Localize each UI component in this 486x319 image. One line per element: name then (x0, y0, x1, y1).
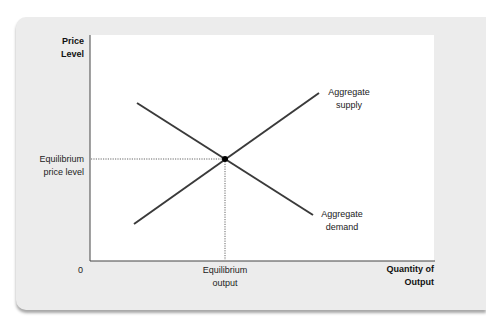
equilibrium-point (222, 156, 228, 162)
x-axis-label-line2: Output (360, 276, 434, 289)
eq-output-label: Equilibrium output (190, 264, 260, 290)
eq-output-label-line1: Equilibrium (190, 264, 260, 277)
eq-price-label-line1: Equilibrium (20, 153, 84, 166)
aggregate-supply-label-line1: Aggregate (318, 86, 380, 99)
aggregate-supply-label-line2: supply (318, 99, 380, 112)
x-axis-label: Quantity of Output (360, 263, 434, 289)
y-axis-label-line1: Price (40, 35, 84, 48)
eq-price-label: Equilibrium price level (20, 153, 84, 179)
origin-label: 0 (78, 264, 83, 277)
aggregate-supply-label: Aggregate supply (318, 86, 380, 112)
eq-price-label-line2: price level (20, 166, 84, 179)
x-axis-label-line1: Quantity of (360, 263, 434, 276)
y-axis-label: Price Level (40, 35, 84, 61)
aggregate-demand-label: Aggregate demand (311, 208, 373, 234)
aggregate-demand-label-line1: Aggregate (311, 208, 373, 221)
y-axis-label-line2: Level (40, 48, 84, 61)
aggregate-demand-label-line2: demand (311, 221, 373, 234)
eq-output-label-line2: output (190, 277, 260, 290)
